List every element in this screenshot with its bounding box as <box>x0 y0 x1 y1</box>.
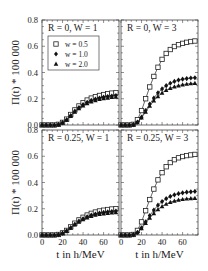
series-line-w-1-0 <box>121 191 195 235</box>
panel-title: R = 0.25, W = 3 <box>127 133 189 143</box>
x-tick-label: 0 <box>40 237 44 247</box>
filled-diamond-marker <box>164 83 168 88</box>
y-tick-label: 0.8 <box>27 15 38 25</box>
legend-label: w = 1.0 <box>65 50 88 59</box>
panel-4: R = 0.25, W = 30204060 <box>119 130 198 247</box>
legend-label: w = 0.5 <box>65 40 88 49</box>
open-square-marker <box>148 85 152 89</box>
y-axis-label: Π(t) * 100 000 <box>9 149 22 215</box>
panel-1: R = 0, W = 10.00.20.40.60.8 <box>27 15 119 130</box>
filled-diamond-marker <box>176 191 180 196</box>
y-tick-label: 0.4 <box>27 68 38 78</box>
panel-frame <box>121 20 198 125</box>
figure: Π(t) * 100 000Π(t) * 100 000 R = 0, W = … <box>0 0 208 271</box>
open-square-marker <box>143 97 147 101</box>
open-square-marker <box>152 187 156 191</box>
filled-triangle-marker <box>160 90 165 94</box>
y-tick-label: 0.4 <box>27 178 38 188</box>
y-tick-label: 0.8 <box>27 125 38 135</box>
filled-diamond-marker <box>168 81 172 86</box>
filled-diamond-marker <box>193 189 197 194</box>
x-tick-label: 40 <box>79 237 88 247</box>
filled-diamond-marker <box>164 196 168 201</box>
open-square-marker <box>193 152 197 156</box>
series-line-w-0-5 <box>121 154 195 235</box>
open-square-marker <box>152 74 156 78</box>
open-square-marker <box>156 65 160 69</box>
open-square-legend-icon <box>54 42 58 46</box>
open-square-marker <box>164 165 168 169</box>
filled-diamond-marker <box>193 75 197 80</box>
open-square-marker <box>193 39 197 43</box>
filled-triangle-marker <box>160 204 165 208</box>
series-line-w-2-0 <box>121 83 195 125</box>
open-square-marker <box>148 197 152 201</box>
panel-3: R = 0.25, W = 10.00.20.40.60.80204060 <box>27 125 119 247</box>
open-square-marker <box>139 220 143 224</box>
filled-triangle-marker <box>193 81 198 85</box>
x-tick-label: 20 <box>58 237 67 247</box>
open-square-marker <box>139 108 143 112</box>
filled-triangle-marker <box>193 196 198 200</box>
y-axis-label: Π(t) * 100 000 <box>9 39 22 105</box>
filled-diamond-marker <box>189 75 193 80</box>
x-tick-label: 0 <box>119 237 123 247</box>
filled-diamond-marker <box>168 194 172 199</box>
filled-diamond-marker <box>172 192 176 197</box>
filled-diamond-marker <box>181 77 185 82</box>
filled-diamond-marker <box>172 79 176 84</box>
y-tick-label: 0.6 <box>27 41 38 51</box>
panel-2: R = 0, W = 3 <box>119 20 198 128</box>
y-tick-label: 0.2 <box>27 204 38 214</box>
open-square-marker <box>156 178 160 182</box>
series-line-w-2-0 <box>42 97 116 125</box>
x-axis-label-group: t in h/MeVt in h/MeV <box>56 248 183 260</box>
panel-title: R = 0.25, W = 1 <box>48 133 110 143</box>
open-square-marker <box>160 57 164 61</box>
filled-triangle-marker <box>164 202 169 206</box>
panel-title: R = 0, W = 3 <box>127 23 177 33</box>
x-tick-label: 40 <box>158 237 167 247</box>
y-tick-label: 0.0 <box>27 230 38 240</box>
panel-frame <box>121 130 198 235</box>
filled-triangle-marker <box>164 88 169 92</box>
series-line-w-0-5 <box>121 41 195 125</box>
y-tick-label: 0.2 <box>27 94 38 104</box>
x-axis-label: t in h/MeV <box>56 248 104 260</box>
legend: w = 0.5w = 1.0w = 2.0 <box>48 36 99 70</box>
x-tick-label: 60 <box>178 237 187 247</box>
x-axis-label: t in h/MeV <box>135 248 183 260</box>
filled-diamond-marker <box>185 76 189 81</box>
x-tick-label: 60 <box>99 237 108 247</box>
legend-label: w = 2.0 <box>65 60 88 69</box>
filled-diamond-marker <box>181 190 185 195</box>
filled-diamond-marker <box>185 190 189 195</box>
x-tick-label: 20 <box>137 237 146 247</box>
open-square-marker <box>143 209 147 213</box>
filled-diamond-marker <box>189 189 193 194</box>
y-tick-label: 0.6 <box>27 151 38 161</box>
open-square-marker <box>160 170 164 174</box>
panel-title: R = 0, W = 1 <box>48 23 98 33</box>
filled-diamond-marker <box>160 199 164 204</box>
filled-diamond-marker <box>176 78 180 83</box>
y-axis-label-group: Π(t) * 100 000Π(t) * 100 000 <box>9 39 22 215</box>
